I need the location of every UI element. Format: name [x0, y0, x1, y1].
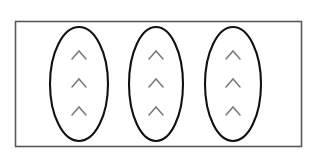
figure-drawing: [0, 0, 322, 162]
figure-canvas: Three ellipses each containing three che…: [0, 0, 322, 162]
figure-background: [0, 0, 322, 162]
